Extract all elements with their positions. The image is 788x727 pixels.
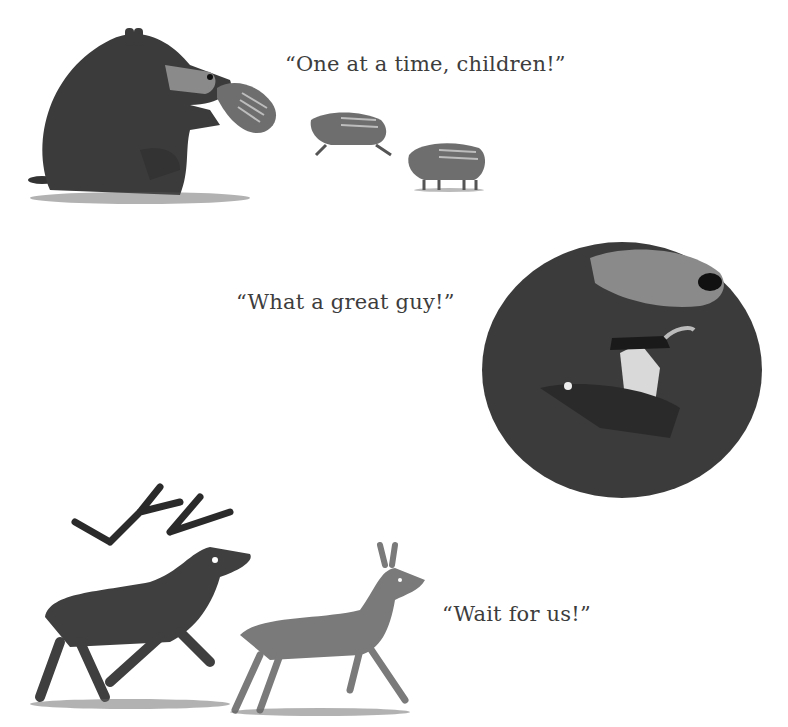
caption-one-at-a-time: “One at a time, children!” <box>285 52 566 76</box>
piglet-standing <box>404 140 494 195</box>
piglet-held <box>212 78 292 148</box>
doe-illustration <box>220 540 420 720</box>
caption-what-a-great-guy: “What a great guy!” <box>236 290 455 314</box>
piglet-jumping <box>306 110 396 160</box>
bear-hug-illustration <box>480 238 780 508</box>
caption-wait-for-us: “Wait for us!” <box>442 602 591 626</box>
